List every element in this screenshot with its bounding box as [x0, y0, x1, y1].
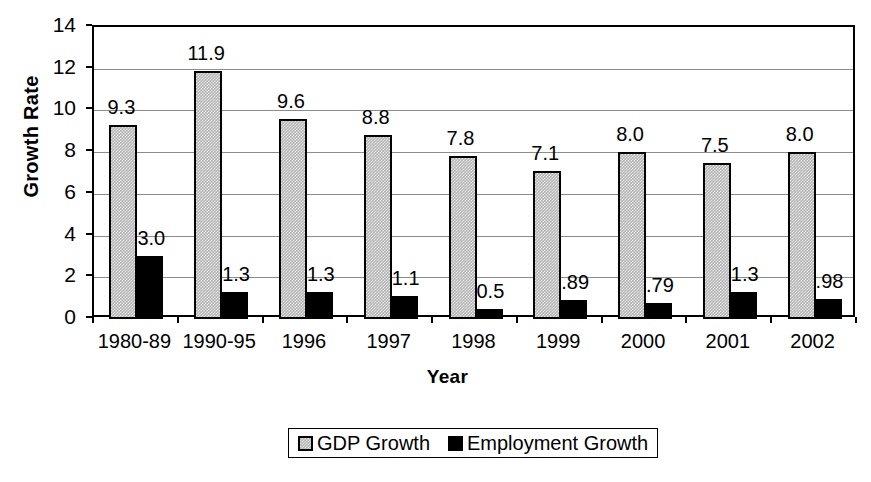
- bar-label-gdp-growth: 8.0: [778, 123, 822, 146]
- y-axis-tick-label: 8: [30, 139, 76, 160]
- bar-employment-growth: [731, 292, 757, 319]
- chart-page: Growth Rate 02468101214 9.33.011.91.39.6…: [0, 0, 871, 482]
- bar-label-employment-growth: 3.0: [137, 227, 165, 250]
- bar-label-employment-growth: .79: [646, 274, 674, 297]
- x-axis-tick-mark: [346, 317, 348, 323]
- bar-employment-growth: [816, 299, 842, 319]
- x-axis-tick-mark: [685, 317, 687, 323]
- bar-employment-growth: [307, 292, 333, 319]
- bar-gdp-growth: [109, 125, 137, 319]
- x-axis-tick-mark: [516, 317, 518, 323]
- bar-label-gdp-growth: 8.8: [354, 106, 398, 129]
- bar-label-gdp-growth: 9.3: [99, 96, 143, 119]
- bar-gdp-growth: [279, 119, 307, 319]
- y-axis-tick-label: 14: [30, 14, 76, 35]
- y-axis-tick-label: 10: [30, 97, 76, 118]
- bar-label-employment-growth: 0.5: [477, 280, 505, 303]
- bar-label-employment-growth: 1.3: [307, 263, 335, 286]
- x-axis-tick-mark: [92, 317, 94, 323]
- x-axis-tick-mark: [262, 317, 264, 323]
- bar-gdp-growth: [194, 71, 222, 319]
- x-axis-tick-label: 1996: [262, 330, 347, 353]
- bar-employment-growth: [561, 300, 587, 319]
- bar-label-gdp-growth: 11.9: [184, 42, 228, 65]
- bar-label-employment-growth: .98: [816, 270, 844, 293]
- bar-label-employment-growth: 1.1: [392, 267, 420, 290]
- bar-gdp-growth: [703, 163, 731, 319]
- bar-label-gdp-growth: 7.5: [693, 134, 737, 157]
- bar-label-employment-growth: .89: [561, 271, 589, 294]
- x-axis-tick-label: 1998: [431, 330, 516, 353]
- legend-swatch-gdp-icon: [298, 436, 313, 451]
- y-axis-tick-label: 6: [30, 181, 76, 202]
- x-axis-tick-label: 2000: [601, 330, 686, 353]
- bar-label-gdp-growth: 8.0: [608, 123, 652, 146]
- legend-swatch-employment-icon: [448, 436, 463, 451]
- chart-legend[interactable]: GDP GrowthEmployment Growth: [288, 428, 658, 458]
- y-axis-tick-label: 12: [30, 56, 76, 77]
- bar-gdp-growth: [449, 156, 477, 319]
- x-axis-tick-mark: [177, 317, 179, 323]
- bar-gdp-growth: [533, 171, 561, 319]
- bar-label-employment-growth: 1.3: [731, 263, 759, 286]
- x-axis-title-text: Year: [427, 366, 468, 387]
- x-axis-tick-label: 1980-89: [92, 330, 177, 353]
- x-axis-tick-label: 1990-95: [177, 330, 262, 353]
- bar-employment-growth: [137, 256, 163, 319]
- bar-gdp-growth: [364, 135, 392, 319]
- x-axis-tick-mark: [431, 317, 433, 323]
- x-axis-tick-label: 1997: [346, 330, 431, 353]
- bar-employment-growth: [477, 309, 503, 319]
- x-axis-tick-label: 1999: [516, 330, 601, 353]
- gridline: [94, 69, 853, 70]
- legend-item[interactable]: Employment Growth: [448, 432, 648, 455]
- bar-employment-growth: [646, 303, 672, 319]
- bar-employment-growth: [222, 292, 248, 319]
- x-axis-tick-mark: [601, 317, 603, 323]
- bar-employment-growth: [392, 296, 418, 319]
- bar-label-employment-growth: 1.3: [222, 263, 250, 286]
- legend-label: Employment Growth: [467, 432, 648, 455]
- x-axis-tick-mark: [770, 317, 772, 323]
- x-axis-tick-label: 2002: [770, 330, 855, 353]
- bar-gdp-growth: [788, 152, 816, 319]
- x-axis-tick-label: 2001: [685, 330, 770, 353]
- y-axis-tick-label: 0: [30, 306, 76, 327]
- bar-label-gdp-growth: 7.1: [523, 142, 567, 165]
- bar-label-gdp-growth: 7.8: [439, 127, 483, 150]
- legend-label: GDP Growth: [317, 432, 430, 455]
- y-axis-tick-label: 2: [30, 264, 76, 285]
- x-axis-title: Year: [0, 366, 871, 388]
- x-axis-tick-mark: [855, 317, 857, 323]
- legend-item[interactable]: GDP Growth: [298, 432, 430, 455]
- bar-gdp-growth: [618, 152, 646, 319]
- y-axis-tick-label: 4: [30, 223, 76, 244]
- bar-label-gdp-growth: 9.6: [269, 90, 313, 113]
